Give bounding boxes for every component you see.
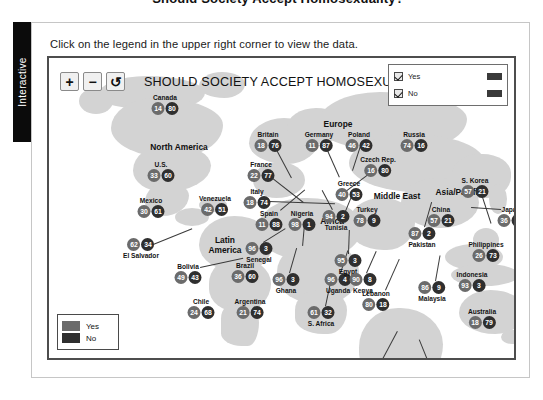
country-marker-s-korea[interactable]: S. Korea5721: [462, 177, 489, 198]
value-bubbles-japan: 3654: [498, 214, 517, 227]
country-marker-malaysia[interactable]: 869Malaysia: [418, 281, 446, 302]
legend-row-no[interactable]: No: [389, 85, 507, 102]
value-bubbles-s-korea: 5721: [462, 185, 489, 198]
no-value-philippines: 73: [486, 249, 499, 262]
no-value-pakistan: 2: [423, 227, 436, 240]
country-marker-senegal[interactable]: 963Senegal: [246, 242, 273, 263]
country-name-britain: Britain: [255, 131, 282, 138]
country-marker-tunisia[interactable]: 942Tunisia: [323, 210, 350, 231]
yes-value-turkey: 78: [354, 214, 367, 227]
country-marker-chile[interactable]: Chile2468: [188, 298, 215, 319]
no-value-france: 77: [262, 169, 275, 182]
no-value-canada: 80: [166, 102, 179, 115]
country-name-s-africa: S. Africa: [308, 320, 335, 327]
country-marker-britain[interactable]: Britain1876: [255, 131, 282, 152]
country-name-s-korea: S. Korea: [462, 177, 489, 184]
country-marker-australia[interactable]: Australia1879: [468, 308, 496, 329]
no-value-bolivia: 43: [189, 271, 202, 284]
country-marker-pakistan[interactable]: 872Pakistan: [408, 227, 435, 248]
value-bubbles-malaysia: 869: [418, 281, 446, 294]
country-marker-uganda[interactable]: 964Uganda: [325, 273, 352, 294]
no-value-czech-rep: 80: [378, 164, 391, 177]
country-name-germany: Germany: [305, 131, 334, 138]
country-marker-mexico[interactable]: Mexico3061: [138, 197, 165, 218]
country-marker-egypt[interactable]: 953Egypt: [335, 254, 362, 275]
legend-label-no: No: [408, 89, 487, 98]
map-canvas[interactable]: + − ↺ SHOULD SOCIETY ACCEPT HOMOSEXUALIT…: [49, 58, 514, 358]
country-marker-venezuela[interactable]: Venezuela4251: [199, 195, 231, 216]
page-heading-crop: Should Society Accept Homosexuality?: [28, 0, 528, 20]
yes-value-s-africa: 61: [308, 306, 321, 319]
country-marker-spain[interactable]: Spain1188: [256, 210, 283, 231]
leader-line-malaysia: [435, 255, 440, 281]
country-marker-japan[interactable]: Japan3654: [498, 206, 517, 227]
reset-view-button[interactable]: ↺: [106, 72, 125, 91]
country-marker-germany[interactable]: Germany1187: [305, 131, 334, 152]
value-bubbles-egypt: 953: [335, 254, 362, 267]
yes-value-pakistan: 87: [409, 227, 422, 240]
country-marker-philippines[interactable]: Philippines2673: [468, 241, 503, 262]
no-value-nigeria: 1: [303, 218, 316, 231]
country-marker-u-s[interactable]: U.S.3360: [148, 161, 175, 182]
zoom-out-button[interactable]: −: [83, 72, 102, 91]
landmass-shape: [79, 88, 113, 114]
value-bubbles-britain: 1876: [255, 139, 282, 152]
value-bubbles-venezuela: 4251: [199, 203, 231, 216]
value-bubbles-germany: 1187: [305, 139, 334, 152]
yes-value-argentina: 21: [237, 306, 250, 319]
yes-value-ghana: 96: [273, 273, 286, 286]
legend-row-yes[interactable]: Yes: [389, 68, 507, 85]
country-marker-argentina[interactable]: Argentina2174: [235, 298, 266, 319]
value-bubbles-philippines: 2673: [468, 249, 503, 262]
value-bubbles-canada: 1480: [152, 102, 179, 115]
country-name-indonesia: Indonesia: [457, 271, 488, 278]
yes-value-china: 57: [428, 214, 441, 227]
country-marker-poland[interactable]: Poland4642: [346, 131, 373, 152]
country-marker-italy[interactable]: Italy1874: [244, 188, 271, 209]
no-value-greece: 53: [350, 188, 363, 201]
country-marker-greece[interactable]: Greece4053: [336, 180, 363, 201]
map-viewport[interactable]: + − ↺ SHOULD SOCIETY ACCEPT HOMOSEXUALIT…: [47, 56, 516, 360]
country-name-argentina: Argentina: [235, 298, 266, 305]
yes-value-kenya: 90: [350, 273, 363, 286]
legend-panel[interactable]: YesNo: [388, 64, 508, 106]
country-marker-russia[interactable]: Russia7416: [401, 131, 428, 152]
yes-value-france: 22: [248, 169, 261, 182]
country-marker-china[interactable]: China5721: [428, 206, 455, 227]
instruction-text: Click on the legend in the upper right c…: [50, 38, 358, 50]
country-marker-s-africa[interactable]: 6132S. Africa: [308, 306, 335, 327]
country-name-el-salvador: El Salvador: [123, 252, 159, 259]
yes-value-poland: 46: [346, 139, 359, 152]
landmass-shape: [359, 308, 443, 360]
page-root: Should Society Accept Homosexuality? Int…: [0, 0, 543, 400]
country-marker-brazil[interactable]: Brazil3660: [232, 262, 259, 283]
value-bubbles-pakistan: 872: [408, 227, 435, 240]
country-name-lebanon: Lebanon: [362, 290, 389, 297]
country-marker-canada[interactable]: Canada1480: [152, 94, 179, 115]
yes-value-lebanon: 80: [362, 298, 375, 311]
country-marker-france[interactable]: France2277: [248, 161, 275, 182]
checkbox-yes-icon[interactable]: [394, 72, 403, 81]
region-label-north-america: North America: [150, 143, 207, 153]
value-bubbles-u-s: 3360: [148, 169, 175, 182]
yes-value-egypt: 95: [335, 254, 348, 267]
country-marker-lebanon[interactable]: Lebanon8018: [362, 290, 389, 311]
no-value-italy: 74: [258, 196, 271, 209]
country-marker-czech-rep[interactable]: Czech Rep.1680: [360, 156, 396, 177]
country-marker-nigeria[interactable]: Nigeria981: [289, 210, 316, 231]
zoom-in-button[interactable]: +: [60, 72, 79, 91]
value-bubbles-russia: 7416: [401, 139, 428, 152]
country-marker-indonesia[interactable]: Indonesia933: [457, 271, 488, 292]
checkbox-no-icon[interactable]: [394, 89, 403, 98]
value-bubbles-spain: 1188: [256, 218, 283, 231]
country-marker-turkey[interactable]: Turkey789: [354, 206, 381, 227]
legend-swatch-yes: [487, 73, 502, 80]
no-value-tunisia: 2: [337, 210, 350, 223]
no-value-brazil: 60: [246, 270, 259, 283]
no-value-kenya: 8: [364, 273, 377, 286]
country-marker-el-salvador[interactable]: 6234El Salvador: [123, 238, 159, 259]
country-marker-bolivia[interactable]: Bolivia4943: [175, 263, 202, 284]
country-marker-ghana[interactable]: 963Ghana: [273, 273, 300, 294]
page-heading: Should Society Accept Homosexuality?: [28, 0, 528, 6]
value-bubbles-china: 5721: [428, 214, 455, 227]
